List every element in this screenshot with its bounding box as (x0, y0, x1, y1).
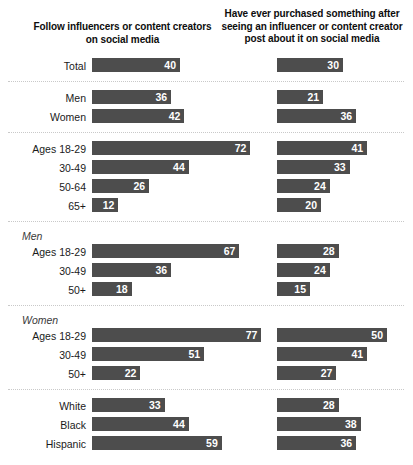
bar-value-label: 77 (246, 328, 258, 342)
bar-value-label: 59 (206, 436, 218, 450)
bar-follow: 44 (92, 417, 189, 431)
bar-purchased: 41 (277, 347, 367, 361)
chart-row: Men3621 (0, 89, 413, 108)
bar-value-label: 36 (341, 436, 353, 450)
row-label: 50+ (0, 367, 86, 381)
group-separator (8, 132, 404, 133)
bar-value-label: 33 (334, 160, 346, 174)
bar-purchased: 36 (277, 436, 356, 450)
bar-value-label: 21 (308, 90, 320, 104)
bar-follow: 12 (92, 198, 118, 212)
row-label: Total (0, 59, 86, 73)
bar-value-label: 50 (371, 328, 383, 342)
row-label: Hispanic (0, 437, 86, 451)
chart-row: Hispanic5936 (0, 435, 413, 454)
chart-row: 50+2227 (0, 365, 413, 384)
row-label: Ages 18-29 (0, 245, 86, 259)
bar-value-label: 20 (305, 198, 317, 212)
bar-follow: 51 (92, 347, 204, 361)
bar-value-label: 51 (189, 347, 201, 361)
row-label: Ages 18-29 (0, 329, 86, 343)
bar-value-label: 30 (327, 58, 339, 72)
bar-value-label: 18 (116, 282, 128, 296)
chart-row: White3328 (0, 397, 413, 416)
bar-value-label: 40 (164, 58, 176, 72)
row-label: 30-49 (0, 348, 86, 362)
chart-row: 65+1220 (0, 197, 413, 216)
bar-follow: 42 (92, 109, 184, 123)
group-heading: Women (22, 313, 58, 327)
bar-value-label: 22 (125, 366, 137, 380)
column-headers: Follow influencers or content creators o… (0, 0, 413, 52)
chart-row: 30-495141 (0, 346, 413, 365)
bar-purchased: 21 (277, 90, 323, 104)
bar-follow: 36 (92, 263, 171, 277)
chart-row: 30-494433 (0, 159, 413, 178)
bar-value-label: 36 (341, 109, 353, 123)
bar-purchased: 24 (277, 179, 330, 193)
bar-purchased: 38 (277, 417, 361, 431)
bar-purchased: 28 (277, 398, 339, 412)
bar-purchased: 24 (277, 263, 330, 277)
chart-row: Total4030 (0, 57, 413, 76)
chart-row: 50-642624 (0, 178, 413, 197)
bar-follow: 40 (92, 58, 180, 72)
group-separator (8, 81, 404, 82)
chart-row: Black4438 (0, 416, 413, 435)
bar-value-label: 41 (352, 141, 364, 155)
row-label: 30-49 (0, 264, 86, 278)
bar-value-label: 44 (173, 160, 185, 174)
group-separator (8, 221, 404, 222)
bar-value-label: 28 (323, 244, 335, 258)
bar-follow: 26 (92, 179, 149, 193)
bar-value-label: 38 (345, 417, 357, 431)
chart-row: 30-493624 (0, 262, 413, 281)
group-heading: Men (22, 229, 42, 243)
bar-value-label: 44 (173, 417, 185, 431)
bar-follow: 67 (92, 244, 239, 258)
row-label: 30-49 (0, 161, 86, 175)
bar-chart-figure: Follow influencers or content creators o… (0, 0, 413, 465)
row-label: 65+ (0, 199, 86, 213)
row-label: White (0, 399, 86, 413)
bar-follow: 36 (92, 90, 171, 104)
row-label: Ages 18-29 (0, 142, 86, 156)
bar-value-label: 72 (235, 141, 247, 155)
bar-value-label: 28 (323, 398, 335, 412)
bar-follow: 22 (92, 366, 140, 380)
row-label: Black (0, 418, 86, 432)
bar-value-label: 36 (156, 263, 168, 277)
bar-value-label: 24 (314, 179, 326, 193)
chart-row: Women4236 (0, 108, 413, 127)
bar-purchased: 27 (277, 366, 336, 380)
group-separator (8, 305, 404, 306)
bar-purchased: 30 (277, 58, 343, 72)
bar-follow: 77 (92, 328, 261, 342)
bar-value-label: 36 (156, 90, 168, 104)
bar-purchased: 36 (277, 109, 356, 123)
bar-follow: 72 (92, 141, 250, 155)
bar-value-label: 15 (294, 282, 306, 296)
bar-value-label: 41 (352, 347, 364, 361)
bar-purchased: 41 (277, 141, 367, 155)
column-header-purchased: Have ever purchased something after seei… (213, 8, 411, 46)
row-label: 50+ (0, 283, 86, 297)
bar-value-label: 42 (169, 109, 181, 123)
group-separator (8, 389, 404, 390)
row-label: 50-64 (0, 180, 86, 194)
bar-purchased: 20 (277, 198, 321, 212)
row-label: Women (0, 110, 86, 124)
bar-purchased: 15 (277, 282, 310, 296)
bar-follow: 44 (92, 160, 189, 174)
bar-value-label: 24 (314, 263, 326, 277)
row-label: Men (0, 91, 86, 105)
bar-purchased: 50 (277, 328, 387, 342)
bar-value-label: 33 (149, 398, 161, 412)
bar-value-label: 67 (224, 244, 236, 258)
bar-follow: 33 (92, 398, 165, 412)
column-header-follow: Follow influencers or content creators o… (30, 21, 215, 46)
bar-value-label: 27 (321, 366, 333, 380)
bar-value-label: 26 (134, 179, 146, 193)
bar-follow: 59 (92, 436, 222, 450)
chart-row: Ages 18-297750 (0, 327, 413, 346)
